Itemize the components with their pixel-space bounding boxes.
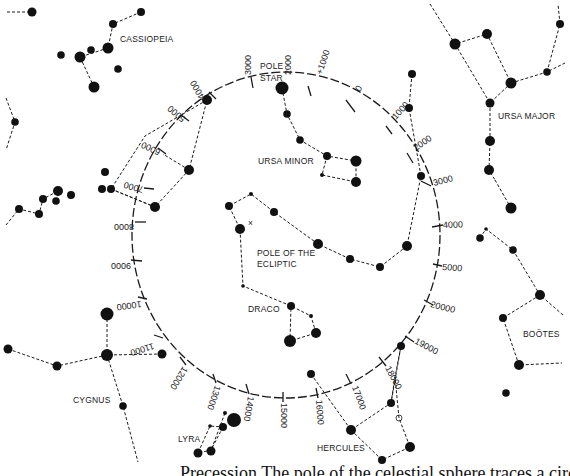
tick-label: 11000 [129,341,155,358]
tick-label: 9000 [111,261,131,271]
edge-star-left [6,98,19,150]
label-bootes: BOÖTES [523,329,560,339]
label-pole-ecliptic-line2: ECLIPTIC [257,259,297,269]
tick-label: 2000 [283,55,293,75]
tick-label: 2000 [411,133,433,153]
constellation-lyra [194,411,242,458]
label-hercules: HERCULES [317,443,365,453]
label-pole-star-line1: POLE [260,61,284,71]
label-lyra: LYRA [178,434,201,444]
label-cygnus: CYGNUS [73,395,111,405]
label-ursa-minor: URSA MINOR [258,156,314,166]
label-ursa-major: URSA MAJOR [498,111,555,121]
constellation-cassiopeia [7,8,145,93]
constellation-cygnus [4,308,167,463]
tick-label: +1000 [314,48,331,75]
circle-tick-marks [131,77,443,402]
tick-label: 19000 [413,336,440,357]
tick-label: 3000 [432,173,454,188]
pole-of-ecliptic-marker: × [248,218,253,228]
tick-label: 12000 [168,365,190,392]
constellation-ursa-major [430,4,565,180]
tick-label: 7000 [123,180,145,195]
tick-label: 6000 [139,140,161,158]
tick-label: 13000 [205,384,222,411]
tick-label: 3000 [243,55,253,75]
tick-label: 10000 [116,299,142,312]
tick-label: 20000 [430,299,457,315]
tick-label: 17000 [350,384,368,411]
tick-label: 16000 [314,399,326,425]
tick-label: 5000 [442,262,463,273]
label-pole-ecliptic-line1: POLE OF THE [257,248,315,258]
label-draco: DRACO [248,304,280,314]
tick-label: 0 [353,84,364,93]
tick-label: 14000 [242,396,256,422]
tick-label: 8000 [114,222,134,232]
constellation-bootes [476,180,563,397]
tick-label: 15000 [279,403,289,428]
star-cluster-left [6,186,75,225]
label-pole-star-line2: STAR [260,73,283,83]
label-cassiopeia: CASSIOPEIA [120,34,174,44]
cropped-caption-text: Precession The pole of the celestial sph… [180,462,570,476]
tick-label: 4000 [443,219,463,230]
constellation-ursa-minor [276,82,362,188]
